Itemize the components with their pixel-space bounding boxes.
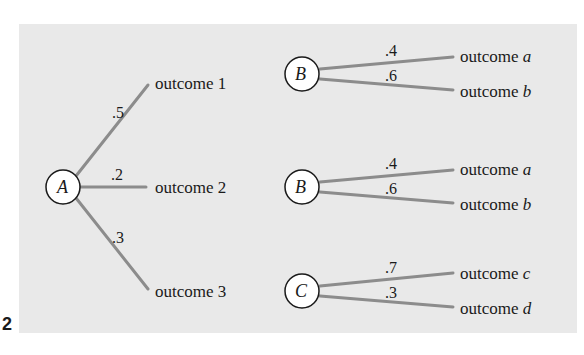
outcome-b1-b-label: outcome b	[460, 82, 531, 101]
outcome-c-label: outcome c	[460, 264, 531, 283]
prob-a-2: .2	[111, 166, 123, 183]
node-b-top-letter: B	[295, 64, 306, 84]
outcome-2-label: outcome 2	[155, 178, 226, 197]
prob-b1-b: .6	[385, 67, 397, 84]
outcome-d-label: outcome d	[460, 299, 532, 318]
prob-b2-b: .6	[385, 180, 397, 197]
probability-tree: A .5 .2 .3 outcome 1 outcome 2 outcome 3…	[0, 0, 584, 355]
outcome-b2-a-label: outcome a	[460, 160, 531, 179]
node-a-letter: A	[56, 177, 69, 197]
outcome-3-label: outcome 3	[155, 282, 226, 301]
prob-a-1: .5	[112, 104, 124, 121]
node-b-middle-letter: B	[295, 177, 306, 197]
prob-b2-a: .4	[385, 155, 397, 172]
outcome-b2-b-label: outcome b	[460, 195, 531, 214]
prob-b1-a: .4	[385, 42, 397, 59]
outcome-1-label: outcome 1	[155, 74, 226, 93]
outcome-b1-a-label: outcome a	[460, 47, 531, 66]
prob-c-c: .7	[385, 259, 397, 276]
figure-number-label: 2	[2, 314, 12, 334]
prob-a-3: .3	[112, 229, 124, 246]
prob-c-d: .3	[385, 284, 397, 301]
node-c-letter: C	[295, 281, 308, 301]
edge-a-outcome1	[76, 85, 148, 176]
